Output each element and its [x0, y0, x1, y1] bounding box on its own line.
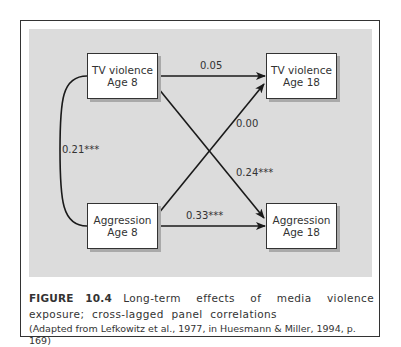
node-label-line1: TV violence — [92, 64, 153, 76]
node-label-line2: Age 18 — [283, 76, 320, 88]
edge-agg8-to-tv18 — [158, 84, 264, 214]
edge-label-agg8-to-agg18: 0.33*** — [186, 210, 223, 221]
figure-number: FIGURE 10.4 — [29, 292, 112, 304]
edge-label-correlation: 0.21*** — [62, 144, 99, 155]
edge-label-tv8-to-tv18: 0.05 — [200, 60, 222, 71]
node-label-line1: TV violence — [271, 64, 332, 76]
node-tv-violence-age-8: TV violence Age 8 — [87, 53, 158, 99]
node-tv-violence-age-18: TV violence Age 18 — [266, 53, 337, 99]
figure-source: (Adapted from Lefkowitz et al., 1977, in… — [29, 323, 374, 347]
edge-label-agg8-to-tv18: 0.00 — [236, 118, 258, 129]
figure-caption: FIGURE 10.4 Long-term effects of media v… — [29, 290, 374, 322]
node-label-line2: Age 18 — [283, 226, 320, 238]
node-aggression-age-8: Aggression Age 8 — [87, 203, 158, 249]
node-aggression-age-18: Aggression Age 18 — [266, 203, 337, 249]
node-label-line2: Age 8 — [107, 226, 137, 238]
node-label-line2: Age 8 — [107, 76, 137, 88]
node-label-line1: Aggression — [273, 214, 331, 226]
edge-label-tv8-to-agg18: 0.24*** — [236, 167, 273, 178]
edge-tv8-to-agg18 — [158, 88, 264, 218]
node-label-line1: Aggression — [94, 214, 152, 226]
